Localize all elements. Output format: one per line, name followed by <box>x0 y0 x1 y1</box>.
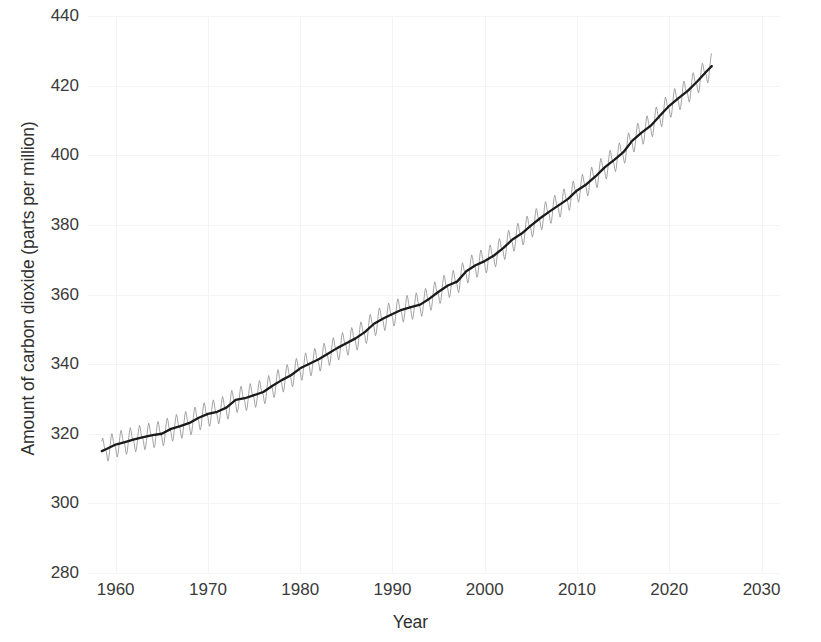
y-axis-title: Amount of carbon dioxide (parts per mill… <box>18 29 39 549</box>
co2-chart-figure: Amount of carbon dioxide (parts per mill… <box>0 0 821 642</box>
chart-lines <box>88 16 780 573</box>
x-tick-label: 2000 <box>466 580 504 600</box>
y-tick-label: 380 <box>51 215 79 235</box>
trend-co2-line <box>102 66 712 451</box>
y-tick-label: 280 <box>51 563 79 583</box>
monthly-co2-line <box>102 53 712 461</box>
y-tick-label: 360 <box>51 285 79 305</box>
x-tick-label: 2030 <box>743 580 781 600</box>
y-tick-label: 440 <box>51 6 79 26</box>
y-tick-label: 300 <box>51 493 79 513</box>
y-tick-label: 340 <box>51 354 79 374</box>
y-tick-label: 320 <box>51 424 79 444</box>
y-tick-label: 420 <box>51 76 79 96</box>
x-tick-label: 1960 <box>97 580 135 600</box>
x-axis-title: Year <box>0 612 821 633</box>
y-tick-label: 400 <box>51 145 79 165</box>
plot-area: 1960197019801990200020102020203028030032… <box>88 16 780 573</box>
x-tick-label: 1990 <box>374 580 412 600</box>
gridline-horizontal <box>88 573 780 574</box>
x-tick-label: 2010 <box>558 580 596 600</box>
x-tick-label: 1970 <box>189 580 227 600</box>
x-tick-label: 1980 <box>281 580 319 600</box>
x-tick-label: 2020 <box>650 580 688 600</box>
